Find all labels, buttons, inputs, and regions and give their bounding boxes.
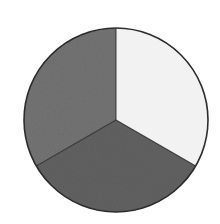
pie-chart-svg xyxy=(0,0,220,224)
pie-chart-figure xyxy=(0,0,220,224)
